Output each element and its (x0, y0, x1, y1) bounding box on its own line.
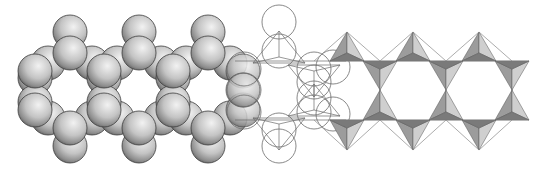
oxygen-sphere (87, 54, 121, 88)
crystal-structure-figure: Silicate double chain (ribbon) — three r… (0, 0, 549, 183)
oxygen-sphere (53, 111, 87, 145)
oxygen-sphere (18, 93, 52, 127)
oxygen-sphere (122, 36, 156, 70)
oxygen-sphere (191, 111, 225, 145)
oxygen-sphere (53, 36, 87, 70)
structure-drawing (0, 0, 549, 183)
panel-polyhedral (314, 32, 529, 150)
panel-space-filling (18, 15, 260, 163)
oxygen-sphere (87, 93, 121, 127)
oxygen-sphere (156, 54, 190, 88)
oxygen-sphere (191, 36, 225, 70)
oxygen-sphere (18, 54, 52, 88)
oxygen-sphere (226, 73, 260, 107)
oxygen-sphere (122, 111, 156, 145)
oxygen-sphere (156, 93, 190, 127)
